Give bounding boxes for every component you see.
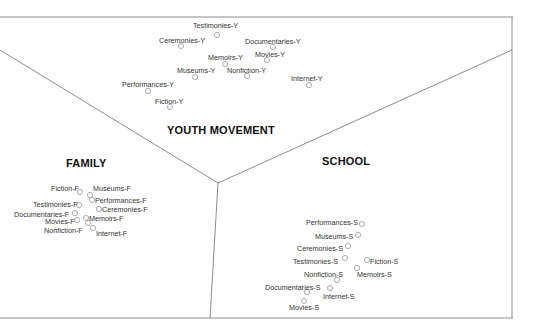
point-marker-icon bbox=[87, 192, 92, 197]
point-label: Nonfiction-S bbox=[304, 271, 343, 278]
point-label: Ceremonies-S bbox=[297, 245, 343, 252]
point-marker-icon bbox=[90, 225, 95, 230]
point-label: Movies-F bbox=[45, 218, 75, 225]
region-label-family: FAMILY bbox=[66, 157, 107, 169]
point-label: Performances-F bbox=[95, 197, 147, 204]
point-label: Ceremonies-F bbox=[102, 206, 148, 213]
divider-bottom bbox=[210, 183, 218, 318]
point-marker-icon bbox=[192, 74, 197, 79]
point-label: Testimonies-Y bbox=[193, 22, 238, 29]
point-label: Movies-S bbox=[289, 304, 319, 311]
point-label: Fiction-F bbox=[51, 185, 79, 192]
point-label: Documentaries-S bbox=[265, 284, 321, 291]
point-marker-icon bbox=[83, 215, 88, 220]
point-marker-icon bbox=[74, 217, 79, 222]
point-marker-icon bbox=[145, 88, 150, 93]
point-label: Museums-S bbox=[315, 233, 353, 240]
region-label-school: SCHOOL bbox=[322, 155, 370, 167]
point-label: Testimonies-S bbox=[293, 258, 338, 265]
point-label: Memoirs-S bbox=[357, 271, 392, 278]
point-label: Internet-Y bbox=[291, 75, 323, 82]
point-label: Museums-F bbox=[93, 185, 131, 192]
point-label: Fiction-Y bbox=[155, 98, 183, 105]
point-marker-icon bbox=[364, 257, 369, 262]
point-marker-icon bbox=[96, 206, 101, 211]
point-marker-icon bbox=[306, 82, 311, 87]
point-label: Documentaries-Y bbox=[245, 38, 301, 45]
point-label: Movies-Y bbox=[255, 51, 285, 58]
point-marker-icon bbox=[214, 32, 219, 37]
point-label: Memoirs-F bbox=[89, 215, 123, 222]
point-label: Fiction-S bbox=[370, 258, 398, 265]
point-label: Museums-Y bbox=[177, 67, 215, 74]
region-label-youth: YOUTH MOVEMENT bbox=[167, 124, 275, 136]
point-label: Performances-S bbox=[306, 219, 358, 226]
point-marker-icon bbox=[355, 232, 360, 237]
point-label: Internet-S bbox=[323, 293, 355, 300]
correspondence-diagram: Testimonies-YCeremonies-YDocumentaries-Y… bbox=[0, 0, 540, 332]
point-marker-icon bbox=[342, 255, 347, 260]
point-label: Internet-F bbox=[96, 230, 127, 237]
point-marker-icon bbox=[327, 285, 332, 290]
point-label: Memoirs-Y bbox=[208, 54, 243, 61]
point-label: Ceremonies-Y bbox=[159, 37, 205, 44]
point-marker-icon bbox=[89, 197, 94, 202]
point-marker-icon bbox=[345, 243, 350, 248]
point-label: Nonfiction-Y bbox=[227, 67, 266, 74]
point-label: Nonfiction-F bbox=[44, 227, 83, 234]
point-label: Testimonies-F bbox=[33, 201, 78, 208]
point-marker-icon bbox=[359, 221, 364, 226]
point-marker-icon bbox=[72, 210, 77, 215]
point-label: Performances-Y bbox=[122, 81, 174, 88]
